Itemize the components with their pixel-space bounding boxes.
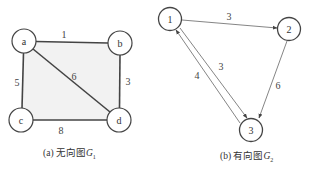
caption-a-sub: 1 bbox=[93, 154, 96, 160]
weight-a-b: 1 bbox=[62, 29, 67, 40]
edge-2-3 bbox=[259, 41, 287, 118]
caption-a-var: G bbox=[86, 148, 93, 158]
weight-1-2: 3 bbox=[227, 11, 232, 22]
node-c: c bbox=[9, 108, 33, 132]
weight-c-d: 8 bbox=[59, 125, 64, 136]
svg-text:2: 2 bbox=[287, 24, 292, 35]
undirected-graph-g1: a b c d 1 5 6 3 8 bbox=[9, 29, 132, 136]
caption-a-text: (a) 无向图 bbox=[43, 148, 86, 158]
svg-text:1: 1 bbox=[168, 14, 173, 25]
edge-1-3 bbox=[180, 28, 247, 118]
node-d: d bbox=[107, 108, 131, 132]
svg-text:a: a bbox=[22, 36, 27, 47]
svg-text:c: c bbox=[19, 115, 24, 126]
svg-text:3: 3 bbox=[249, 125, 254, 136]
node-b: b bbox=[108, 31, 132, 55]
weight-1-3: 3 bbox=[219, 61, 224, 72]
node-2: 2 bbox=[278, 18, 301, 41]
caption-b-sub: 2 bbox=[270, 157, 273, 163]
svg-text:d: d bbox=[117, 115, 122, 126]
node-a: a bbox=[12, 29, 36, 53]
node-3: 3 bbox=[240, 119, 263, 142]
edge-3-1 bbox=[176, 30, 240, 123]
weight-a-d: 6 bbox=[72, 71, 77, 82]
caption-b: (b) 有向图G2 bbox=[220, 148, 273, 163]
weight-a-c: 5 bbox=[15, 77, 20, 88]
directed-graph-g2: 1 2 3 3 3 4 6 bbox=[159, 8, 301, 142]
caption-a: (a) 无向图G1 bbox=[43, 145, 96, 160]
svg-text:b: b bbox=[118, 38, 123, 49]
weight-b-d: 3 bbox=[126, 76, 131, 87]
weight-3-1: 4 bbox=[195, 70, 200, 81]
caption-b-text: (b) 有向图 bbox=[220, 151, 263, 161]
weight-2-3: 6 bbox=[276, 80, 281, 91]
edge-b-d bbox=[120, 55, 121, 108]
node-1: 1 bbox=[159, 8, 182, 31]
